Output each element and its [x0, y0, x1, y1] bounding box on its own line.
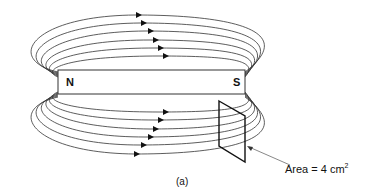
arrowheads-above [136, 12, 169, 59]
area-label: Area = 4 cm2 [285, 162, 349, 175]
bar-magnet [58, 70, 245, 94]
area-pointer-line [249, 147, 290, 165]
south-pole-label: S [233, 76, 240, 88]
area-label-text: Area = 4 cm [285, 163, 345, 175]
field-lines-below [31, 92, 264, 154]
area-label-superscript: 2 [345, 162, 349, 169]
arrowheads-below [134, 109, 169, 157]
area-pointer-arrowhead [247, 146, 253, 151]
north-pole-label: N [66, 76, 74, 88]
figure-caption: (a) [176, 176, 188, 187]
field-lines-above [31, 15, 264, 77]
